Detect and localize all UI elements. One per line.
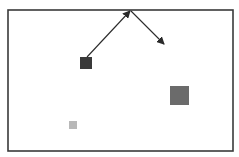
diagram-canvas xyxy=(0,0,239,157)
frame-rectangle xyxy=(8,10,233,151)
diagram-svg xyxy=(0,0,239,157)
square-light xyxy=(69,121,77,129)
square-dark xyxy=(80,57,92,69)
square-medium xyxy=(170,86,189,105)
